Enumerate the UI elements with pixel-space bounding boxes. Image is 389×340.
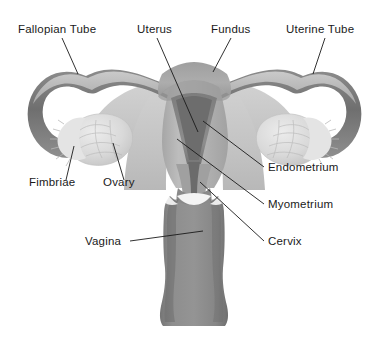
label-endometrium: Endometrium xyxy=(268,161,339,173)
label-ovary: Ovary xyxy=(103,176,135,188)
label-fallopian-tube: Fallopian Tube xyxy=(18,23,96,35)
label-vagina: Vagina xyxy=(85,235,122,247)
diagram-canvas: Fallopian Tube Uterus Fundus Uterine Tub… xyxy=(0,0,389,340)
label-myometrium: Myometrium xyxy=(268,198,333,210)
label-uterus: Uterus xyxy=(137,23,172,35)
label-fimbriae: Fimbriae xyxy=(29,176,75,188)
label-cervix: Cervix xyxy=(268,235,302,247)
anatomy-diagram: Fallopian Tube Uterus Fundus Uterine Tub… xyxy=(0,0,389,340)
label-fundus: Fundus xyxy=(211,23,251,35)
label-uterine-tube: Uterine Tube xyxy=(286,23,354,35)
vagina xyxy=(160,192,228,326)
